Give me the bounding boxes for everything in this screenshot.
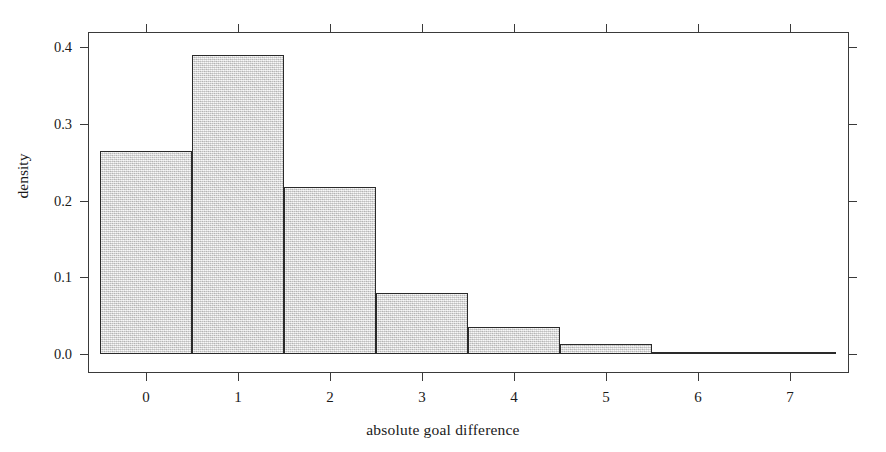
x-axis-tick — [514, 373, 515, 381]
y-axis-tick-label: 0.2 — [32, 194, 72, 209]
y-axis-tick-right — [849, 124, 857, 125]
x-axis-tick-top — [330, 24, 331, 32]
y-axis-tick-right — [849, 277, 857, 278]
x-axis-tick-top — [422, 24, 423, 32]
x-axis-tick-top — [146, 24, 147, 32]
x-axis-tick-top — [790, 24, 791, 32]
x-axis-tick-top — [606, 24, 607, 32]
x-axis-tick-top — [238, 24, 239, 32]
y-axis-tick-right — [849, 47, 857, 48]
x-axis-tick — [330, 373, 331, 381]
x-axis-title: absolute goal difference — [0, 421, 886, 439]
x-axis-tick-label: 6 — [678, 390, 718, 405]
x-axis-tick-top — [514, 24, 515, 32]
x-axis-tick — [606, 373, 607, 381]
histogram-bar — [560, 344, 652, 354]
histogram-bar — [376, 293, 468, 354]
x-axis-tick-label: 1 — [218, 390, 258, 405]
x-axis-tick — [698, 373, 699, 381]
x-axis-tick-label: 0 — [126, 390, 166, 405]
y-axis-tick — [80, 124, 88, 125]
y-axis-title: density — [14, 154, 32, 199]
y-axis-tick-label: 0.3 — [32, 117, 72, 132]
x-axis-tick-label: 4 — [494, 390, 534, 405]
y-axis-tick — [80, 201, 88, 202]
y-axis-tick-label: 0.4 — [32, 40, 72, 55]
x-axis-tick-label: 5 — [586, 390, 626, 405]
histogram-bar — [744, 352, 836, 354]
histogram-bar — [468, 327, 560, 354]
histogram-bar — [284, 187, 376, 354]
x-axis-tick — [790, 373, 791, 381]
y-axis-tick — [80, 354, 88, 355]
y-axis-tick — [80, 47, 88, 48]
x-axis-tick — [146, 373, 147, 381]
y-axis-tick-label: 0.0 — [32, 347, 72, 362]
bars-layer — [88, 32, 849, 373]
y-axis-tick-right — [849, 354, 857, 355]
x-axis-tick-top — [698, 24, 699, 32]
x-axis-tick — [238, 373, 239, 381]
x-axis-tick — [422, 373, 423, 381]
histogram-bar — [652, 352, 744, 354]
y-axis-tick-right — [849, 201, 857, 202]
x-axis-tick-label: 2 — [310, 390, 350, 405]
histogram-figure: 0.00.10.20.30.401234567 absolute goal di… — [0, 0, 886, 452]
histogram-bar — [192, 55, 284, 354]
histogram-bar — [100, 151, 192, 354]
x-axis-tick-label: 7 — [770, 390, 810, 405]
y-axis-tick — [80, 277, 88, 278]
y-axis-tick-label: 0.1 — [32, 270, 72, 285]
x-axis-tick-label: 3 — [402, 390, 442, 405]
